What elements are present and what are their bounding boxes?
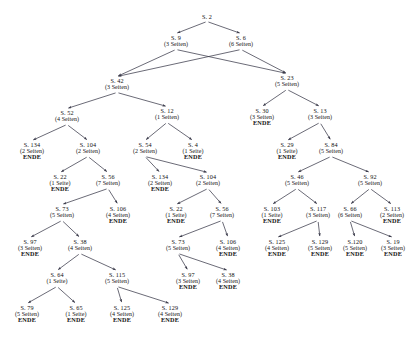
tree-edge <box>109 190 117 203</box>
tree-edge <box>350 222 354 236</box>
node-end-marker: ENDE <box>110 317 134 323</box>
node-end-marker: ENDE <box>50 186 71 192</box>
tree-edge <box>351 189 369 203</box>
tree-node[interactable]: S. 23(5 Seiten) <box>275 75 299 87</box>
tree-node[interactable]: S. 106(4 Seiten)ENDE <box>106 206 130 225</box>
node-end-marker: ENDE <box>216 251 240 257</box>
tree-node[interactable]: S. 104(2 Seiten) <box>196 174 220 186</box>
tree-node[interactable]: S.120(5 Seiten)ENDE <box>343 239 367 258</box>
tree-edge <box>168 123 192 139</box>
tree-node[interactable]: S. 29(1 Seite)ENDE <box>277 142 298 161</box>
node-page-count: (5 Seiten) <box>285 180 309 186</box>
tree-node[interactable]: S. 64(1 Seite) <box>47 272 68 284</box>
tree-edge <box>278 221 316 237</box>
tree-node[interactable]: S. 38(4 Seiten) <box>68 239 92 251</box>
tree-node[interactable]: S. 4(1 Seite)ENDE <box>183 142 204 161</box>
node-page-count: (4 Seiten) <box>68 245 92 251</box>
tree-node[interactable]: S. 129(5 Seiten)ENDE <box>308 239 332 258</box>
node-page-count: (3 Seiten) <box>164 41 188 47</box>
tree-node[interactable]: S. 54(2 Seiten) <box>133 142 157 154</box>
tree-node[interactable]: S. 125(4 Seiten)ENDE <box>265 239 289 258</box>
tree-edge <box>332 157 368 172</box>
tree-edge <box>273 189 295 203</box>
tree-node[interactable]: S. 79(5 Seiten)ENDE <box>15 305 39 324</box>
node-page-count: (6 Seiten) <box>338 212 362 218</box>
tree-node[interactable]: S. 66(6 Seiten) <box>338 206 362 218</box>
node-page-count: (3 Seiten) <box>105 84 129 90</box>
tree-node[interactable]: S. 42(3 Seiten) <box>105 78 129 90</box>
tree-node[interactable]: S. 65(1 Seite)ENDE <box>66 305 87 324</box>
tree-node[interactable]: S. 56(7 Seiten) <box>210 206 234 218</box>
tree-node[interactable]: S. 103(1 Seite)ENDE <box>262 206 283 225</box>
tree-edge <box>223 222 228 236</box>
tree-edge <box>31 221 60 237</box>
tree-node[interactable]: S. 19(3 Seiten)ENDE <box>381 239 405 258</box>
node-end-marker: ENDE <box>250 120 274 126</box>
tree-node[interactable]: S. 125(4 Seiten)ENDE <box>110 305 134 324</box>
node-page-count: (3 Seiten) <box>308 114 332 120</box>
tree-node[interactable]: S. 104(2 Seiten) <box>76 142 100 154</box>
node-page-count: (5 Seiten) <box>166 245 190 251</box>
tree-node[interactable]: S. 129(4 Seiten)ENDE <box>158 305 182 324</box>
tree-node[interactable]: S. 30(3 Seiten)ENDE <box>250 108 274 127</box>
node-page-count: (5 Seiten) <box>275 81 299 87</box>
tree-node[interactable]: S. 115(5 Seiten) <box>105 272 129 284</box>
node-end-marker: ENDE <box>183 154 204 160</box>
tree-diagram: S. 2S. 9(3 Seiten)S. 6(6 Seiten)S. 42(3 … <box>0 0 414 358</box>
node-end-marker: ENDE <box>265 251 289 257</box>
tree-node[interactable]: S. 117(3 Seiten) <box>306 206 330 218</box>
tree-node[interactable]: S. 2 <box>202 14 212 20</box>
node-end-marker: ENDE <box>277 154 298 160</box>
tree-edge <box>89 157 107 171</box>
tree-edge <box>263 90 286 105</box>
tree-node[interactable]: S. 134(2 Seiten)ENDE <box>148 174 172 193</box>
tree-node[interactable]: S. 46(5 Seiten) <box>285 174 309 186</box>
node-page-count: (5 Seiten) <box>319 148 343 154</box>
tree-edge <box>177 22 205 33</box>
tree-node[interactable]: S. 9(3 Seiten) <box>164 35 188 47</box>
tree-node[interactable]: S. 38(4 Seiten)ENDE <box>216 272 240 291</box>
tree-edge <box>298 157 329 172</box>
tree-edge <box>61 157 86 172</box>
tree-node[interactable]: S. 134(2 Seiten)ENDE <box>20 142 44 161</box>
tree-node[interactable]: S. 113(2 Seiten)ENDE <box>380 206 404 225</box>
tree-node[interactable]: S. 73(5 Seiten) <box>166 239 190 251</box>
node-end-marker: ENDE <box>148 186 172 192</box>
tree-edge <box>146 123 166 139</box>
tree-node[interactable]: S. 73(5 Seiten) <box>50 206 74 218</box>
node-end-marker: ENDE <box>66 317 87 323</box>
tree-edge <box>118 287 168 303</box>
tree-node[interactable]: S. 22(1 Seite)ENDE <box>166 206 187 225</box>
node-page-count: (4 Seiten) <box>55 116 79 122</box>
tree-node[interactable]: S. 13(3 Seiten) <box>308 108 332 120</box>
node-end-marker: ENDE <box>216 284 240 290</box>
node-page-count: (2 Seiten) <box>196 180 220 186</box>
tree-node[interactable]: S. 6(6 Seiten) <box>229 35 253 47</box>
node-end-marker: ENDE <box>166 218 187 224</box>
tree-node[interactable]: S. 92(5 Seiten) <box>358 174 382 186</box>
tree-node[interactable]: S. 12(1 Seiten) <box>155 108 179 120</box>
tree-node[interactable]: S. 106(4 Seiten)ENDE <box>216 239 240 258</box>
tree-node[interactable]: S. 52(4 Seiten) <box>55 110 79 122</box>
tree-edge <box>58 288 75 303</box>
tree-node[interactable]: S. 97(3 Seiten)ENDE <box>176 272 200 291</box>
node-end-marker: ENDE <box>106 218 130 224</box>
tree-edge <box>209 190 221 204</box>
tree-edge <box>288 123 318 140</box>
node-page-count: (1 Seiten) <box>155 114 179 120</box>
tree-edge <box>298 189 317 203</box>
tree-node[interactable]: S. 84(5 Seiten) <box>319 142 343 154</box>
tree-node[interactable]: S. 97(3 Seiten)ENDE <box>18 239 42 258</box>
tree-edge <box>68 125 87 139</box>
tree-node[interactable]: S. 56(7 Seiten) <box>96 174 120 186</box>
node-end-marker: ENDE <box>20 154 44 160</box>
node-end-marker: ENDE <box>176 284 200 290</box>
tree-edge <box>179 255 187 269</box>
node-page-count: (7 Seiten) <box>96 180 120 186</box>
tree-edge <box>318 222 320 236</box>
tree-node[interactable]: S. 22(1 Seite)ENDE <box>50 174 71 193</box>
tree-edge <box>117 288 121 302</box>
tree-edge <box>208 22 239 33</box>
tree-edge <box>118 93 165 106</box>
node-end-marker: ENDE <box>262 218 283 224</box>
